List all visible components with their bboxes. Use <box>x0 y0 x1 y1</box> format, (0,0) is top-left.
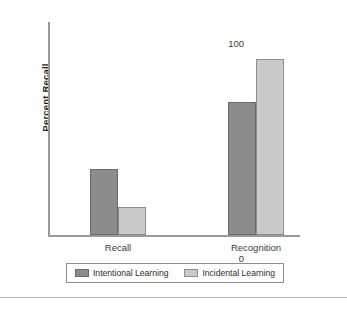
bar-chart-figure: Percent Recall 100 50 0 Recall Recogniti… <box>0 0 347 309</box>
legend-entry-incidental: Incidental Learning <box>184 269 275 278</box>
bar-recall-intentional <box>90 169 118 236</box>
x-category-label-recall: Recall <box>105 243 131 253</box>
legend-swatch-icon-intentional <box>75 269 89 277</box>
bar-recall-incidental <box>118 207 146 235</box>
y-tick-label-100: 100 <box>228 39 244 49</box>
bar-recognition-intentional <box>228 102 256 235</box>
legend-label-incidental: Incidental Learning <box>202 269 275 278</box>
x-axis-line <box>48 235 300 237</box>
page-divider-rule <box>0 297 347 298</box>
legend-swatch-icon-incidental <box>184 269 198 277</box>
x-category-label-recognition: Recognition <box>231 243 281 253</box>
y-axis-line <box>48 22 50 237</box>
plot-area: 100 50 0 Recall Recognition <box>48 22 300 237</box>
chart-legend: Intentional Learning Incidental Learning <box>66 263 284 283</box>
legend-entry-intentional: Intentional Learning <box>75 269 169 278</box>
legend-label-intentional: Intentional Learning <box>93 269 169 278</box>
bar-recognition-incidental <box>256 59 284 235</box>
